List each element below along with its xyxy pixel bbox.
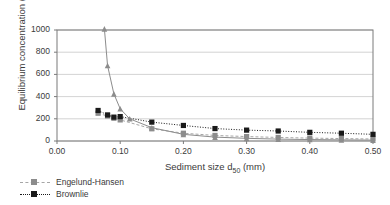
- plot-area: [0, 0, 390, 205]
- plot-frame: [57, 30, 373, 141]
- gridlines: [57, 30, 373, 141]
- data-point-marker: [102, 26, 108, 32]
- legend-item-brownlie: Brownlie: [20, 188, 124, 200]
- x-tick-label: 0.30: [227, 146, 267, 156]
- data-point-marker: [212, 126, 217, 131]
- data-point-marker: [149, 120, 154, 125]
- data-point-marker: [118, 114, 123, 119]
- series-line: [98, 113, 373, 139]
- plot-border: [57, 30, 373, 141]
- series-line: [104, 29, 373, 140]
- legend-label: Engelund-Hansen: [50, 177, 124, 187]
- data-point-marker: [339, 131, 344, 136]
- legend-key-brownlie: [20, 188, 50, 200]
- x-tick-label: 0.40: [290, 146, 330, 156]
- series-curve-2: [102, 26, 376, 143]
- x-tick-label: 0.00: [37, 146, 77, 156]
- y-tick-label: 200: [20, 113, 50, 123]
- data-point-marker: [370, 132, 375, 137]
- legend-item-engelund-hansen: Engelund-Hansen: [20, 176, 124, 188]
- series-engelund-hansen: [95, 111, 375, 142]
- chart-figure: Equilibrium concentration (ppm) Sediment…: [0, 0, 390, 205]
- data-point-marker: [105, 112, 110, 117]
- x-tick-label: 0.50: [353, 146, 390, 156]
- legend-label: Brownlie: [50, 189, 89, 199]
- data-point-marker: [95, 108, 100, 113]
- y-tick-label: 400: [20, 91, 50, 101]
- legend-square-marker-icon: [31, 179, 37, 185]
- data-point-marker: [244, 128, 249, 133]
- data-point-marker: [181, 123, 186, 128]
- data-point-marker: [111, 115, 116, 120]
- data-point-marker: [111, 91, 117, 97]
- y-tick-label: 600: [20, 68, 50, 78]
- y-tick-label: 1000: [20, 24, 50, 34]
- data-point-marker: [105, 63, 111, 69]
- legend-key-engelund-hansen: [20, 176, 50, 188]
- x-tick-label: 0.20: [163, 146, 203, 156]
- data-series-layer: [95, 26, 375, 143]
- chart-legend: Engelund-Hansen Brownlie: [20, 176, 124, 200]
- y-tick-label: 0: [20, 135, 50, 145]
- data-point-marker: [307, 130, 312, 135]
- x-tick-label: 0.10: [100, 146, 140, 156]
- data-point-marker: [276, 128, 281, 133]
- data-point-marker: [117, 106, 123, 112]
- legend-square-marker-icon: [31, 191, 37, 197]
- y-tick-label: 800: [20, 46, 50, 56]
